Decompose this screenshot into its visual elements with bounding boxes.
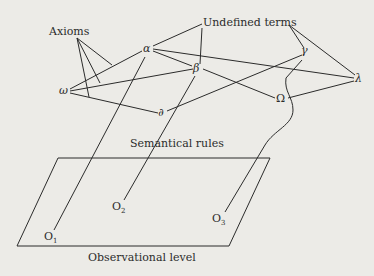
observation-o1: O1	[44, 231, 58, 245]
semantical-rules-label: Semantical rules	[130, 138, 224, 149]
edge-beta-Omega	[203, 69, 275, 98]
edge-omega-partial	[70, 93, 158, 113]
observational-level-label: Observational level	[88, 252, 196, 263]
node-gamma: γ	[301, 45, 308, 56]
axioms-label: Axioms	[49, 26, 89, 37]
node-Omega: Ω	[276, 93, 285, 104]
diagram-canvas: Axioms Undefined terms Semantical rules …	[0, 0, 374, 276]
undefined-term-pointer	[200, 28, 202, 64]
edge-Omega-lambda	[288, 81, 354, 98]
undefined-term-pointer	[289, 25, 355, 75]
undefined-term-pointer	[153, 24, 202, 46]
axiom-pointer	[77, 38, 112, 65]
edge-omega-beta	[70, 69, 193, 91]
node-omega: ω	[59, 85, 68, 96]
node-beta: β	[193, 63, 199, 74]
observation-o3: O3	[212, 213, 226, 227]
undefined-terms-label: Undefined terms	[203, 17, 297, 28]
node-lambda: λ	[355, 73, 362, 84]
node-partial: ∂	[158, 107, 164, 118]
edge-alpha-lambda	[153, 49, 354, 78]
edge-alpha-beta	[153, 51, 192, 66]
axiom-pointer	[77, 38, 100, 83]
node-alpha: α	[143, 43, 150, 54]
observation-o2: O2	[112, 201, 126, 215]
